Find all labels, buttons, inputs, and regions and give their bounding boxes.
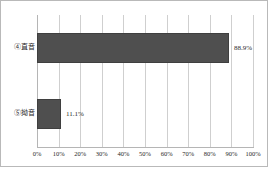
x-tick-label: 10%: [53, 151, 65, 158]
bar: [37, 33, 229, 63]
bar-value-label: 11.1%: [66, 111, 84, 118]
x-axis-line: [37, 147, 254, 148]
bar-row: 11.1%: [37, 99, 253, 129]
chart-figure: 0%10%20%30%40%50%60%70%80%90%100%88.9%④直…: [0, 0, 268, 167]
x-tick-label: 50%: [139, 151, 151, 158]
x-tick-label: 100%: [245, 151, 260, 158]
x-tick-label: 20%: [74, 151, 86, 158]
category-label: ④直音: [3, 44, 35, 51]
x-tick-label: 90%: [225, 151, 237, 158]
x-tick-label: 80%: [204, 151, 216, 158]
bar-row: 88.9%: [37, 33, 253, 63]
x-tick-label: 70%: [182, 151, 194, 158]
category-label: ⑤拗音: [3, 110, 35, 117]
bar: [37, 99, 61, 129]
x-tick-label: 60%: [161, 151, 173, 158]
gridline-100%: [253, 15, 254, 147]
x-tick-label: 40%: [117, 151, 129, 158]
bar-value-label: 88.9%: [234, 45, 252, 52]
x-tick-label: 0%: [33, 151, 42, 158]
x-tick-label: 30%: [96, 151, 108, 158]
